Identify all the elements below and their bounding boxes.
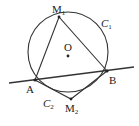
label-o: O <box>64 41 72 53</box>
label-c2: C2 <box>43 97 54 111</box>
point-o <box>67 55 70 58</box>
label-m2: M2 <box>65 102 79 116</box>
label-m1: M1 <box>52 3 66 17</box>
label-c1: C1 <box>101 17 112 31</box>
geometry-diagram: M1 O C1 A B C2 M2 <box>0 0 139 126</box>
point-m1 <box>58 16 61 19</box>
label-b: B <box>109 74 116 86</box>
point-b <box>105 69 108 72</box>
point-a <box>33 78 36 81</box>
point-m2 <box>70 98 73 101</box>
label-a: A <box>26 83 34 95</box>
